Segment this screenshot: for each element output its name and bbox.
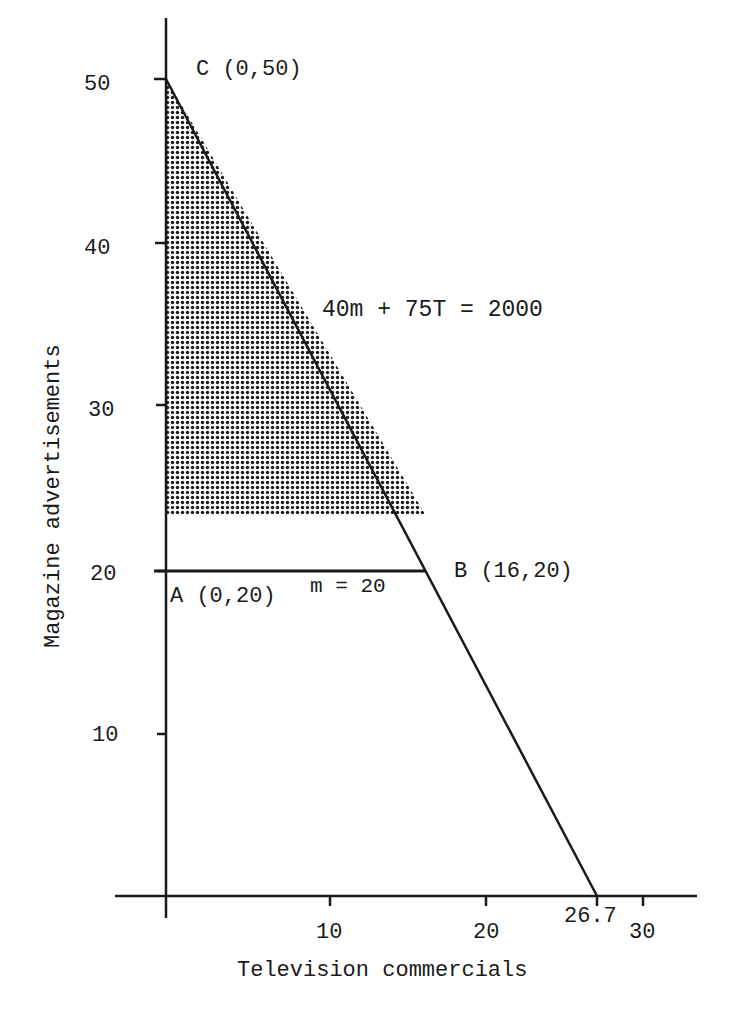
linear-programming-chart: 50 40 30 20 10 10 20 26.7 30 Television … — [0, 0, 733, 1024]
y-tick-label: 10 — [92, 723, 118, 748]
y-tick-label: 40 — [84, 236, 110, 261]
x-tick-label: 10 — [316, 920, 342, 945]
y-tick-label: 50 — [84, 72, 110, 97]
y-tick-label: 20 — [90, 562, 116, 587]
x-axis-title: Television commercials — [237, 958, 527, 983]
x-tick-label: 30 — [629, 920, 655, 945]
y-axis-title: Magazine advertisements — [41, 344, 66, 648]
y-tick-label: 30 — [88, 398, 114, 423]
point-a-label: A (0,20) — [170, 584, 276, 609]
min-constraint-label: m = 20 — [310, 575, 386, 598]
equation-label: 40m + 75T = 2000 — [322, 297, 543, 323]
point-c-label: C (0,50) — [196, 57, 302, 82]
point-b-label: B (16,20) — [454, 559, 573, 584]
x-intercept-label: 26.7 — [564, 904, 617, 929]
y-ticks — [154, 79, 166, 734]
x-tick-label: 20 — [473, 920, 499, 945]
